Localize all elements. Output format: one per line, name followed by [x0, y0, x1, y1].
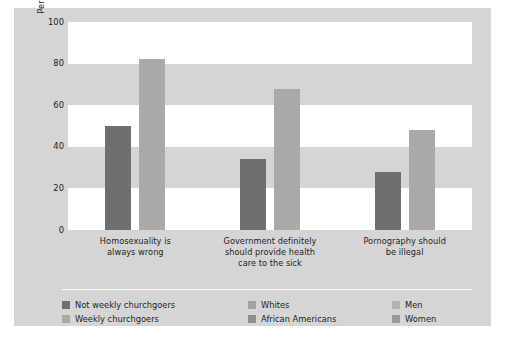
legend-item-label: Men — [405, 300, 423, 310]
y-axis-tick-label: 40 — [38, 142, 64, 151]
x-axis-label-line: Homosexuality is — [68, 236, 203, 247]
x-axis-label-line: should provide health — [203, 247, 338, 258]
y-axis-tick-label: 20 — [38, 184, 64, 193]
legend-item[interactable]: Women — [392, 312, 436, 325]
bar — [105, 126, 131, 230]
legend-swatch-icon — [392, 301, 400, 309]
legend-divider — [62, 289, 472, 290]
y-axis-tick-label: 80 — [38, 59, 64, 68]
figure: Percentage Giving Displayed Response 020… — [0, 0, 505, 342]
x-axis-label-line: be illegal — [337, 247, 472, 258]
chart-legend: Not weekly churchgoersWeekly churchgoers… — [62, 298, 476, 328]
legend-item-label: Women — [405, 314, 436, 324]
y-axis-tick-label: 60 — [38, 101, 64, 110]
legend-item[interactable]: Whites — [248, 298, 289, 311]
legend-item[interactable]: African Americans — [248, 312, 336, 325]
grid-band — [68, 64, 472, 106]
chart-panel: Percentage Giving Displayed Response 020… — [14, 8, 491, 326]
plot-area — [68, 22, 472, 230]
legend-swatch-icon — [62, 301, 70, 309]
legend-item-label: Not weekly churchgoers — [75, 300, 175, 310]
legend-swatch-icon — [248, 301, 256, 309]
x-axis-label-line: always wrong — [68, 247, 203, 258]
legend-item[interactable]: Men — [392, 298, 423, 311]
x-axis-label-line: Government definitely — [203, 236, 338, 247]
legend-item-label: African Americans — [261, 314, 336, 324]
legend-item[interactable]: Weekly churchgoers — [62, 312, 159, 325]
legend-swatch-icon — [62, 315, 70, 323]
y-axis-tick-labels: 020406080100 — [36, 22, 64, 230]
y-axis-tick-label: 100 — [38, 18, 64, 27]
legend-item-label: Weekly churchgoers — [75, 314, 159, 324]
grid-band — [68, 22, 472, 64]
x-axis-label-line: Pornography should — [337, 236, 472, 247]
legend-item-label: Whites — [261, 300, 289, 310]
bar — [139, 59, 165, 230]
bar — [240, 159, 266, 230]
x-axis-tick-labels: Homosexuality isalways wrongGovernment d… — [68, 236, 472, 280]
x-axis-label-line: care to the sick — [203, 258, 338, 269]
legend-item[interactable]: Not weekly churchgoers — [62, 298, 175, 311]
x-axis-tick-label: Pornography shouldbe illegal — [337, 236, 472, 258]
legend-swatch-icon — [248, 315, 256, 323]
x-axis-tick-label: Homosexuality isalways wrong — [68, 236, 203, 258]
legend-swatch-icon — [392, 315, 400, 323]
y-axis-tick-label: 0 — [38, 226, 64, 235]
bar — [274, 89, 300, 230]
bar — [375, 172, 401, 230]
x-axis-tick-label: Government definitelyshould provide heal… — [203, 236, 338, 270]
bar — [409, 130, 435, 230]
